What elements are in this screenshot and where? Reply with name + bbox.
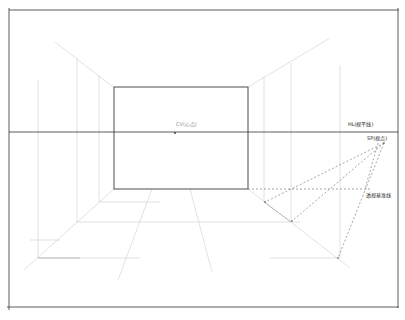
station-point-rays — [248, 143, 384, 258]
hl-label: HL(视平线) — [348, 122, 373, 127]
measure-points — [264, 142, 385, 259]
cv-label: CV(心点) — [176, 122, 197, 127]
back-wall — [114, 87, 248, 189]
base-line-label: 透视基准线 — [366, 193, 391, 198]
sp-label: SP(视点) — [367, 136, 387, 141]
floor-edges — [38, 202, 291, 258]
center-of-vision-point — [174, 132, 176, 134]
perspective-drawing — [0, 0, 405, 320]
construction-lines — [24, 38, 350, 280]
